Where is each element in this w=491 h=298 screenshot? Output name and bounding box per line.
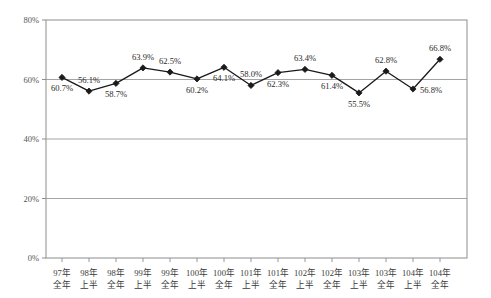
data-point-label: 61.4%	[321, 81, 343, 91]
x-axis-label-period: 全年	[377, 279, 395, 290]
x-axis-label-period: 上半	[188, 279, 206, 290]
data-point-label: 64.1%	[213, 73, 235, 83]
x-axis-label-year: 101年	[267, 267, 289, 278]
x-axis-tick-label: 101年上半	[240, 267, 262, 290]
y-axis-tick-label: 80%	[23, 15, 39, 25]
chart-container: 0%20%40%60%80%97年全年98年上半98年全年99年上半99年全年1…	[0, 0, 491, 298]
x-axis-label-year: 99年	[161, 267, 179, 278]
x-axis-label-year: 99年	[134, 267, 152, 278]
y-axis-tick-label: 40%	[23, 134, 39, 144]
x-axis-tick-label: 103年上半	[348, 267, 370, 290]
x-axis-label-year: 103年	[375, 267, 397, 278]
y-gridlines: 0%20%40%60%80%	[23, 15, 467, 263]
data-point-label: 60.2%	[186, 85, 208, 95]
x-axis-tick-label: 102年上半	[294, 267, 316, 290]
x-axis-label-period: 全年	[53, 279, 71, 290]
data-point-label: 63.4%	[294, 53, 316, 63]
data-point-label: 66.8%	[429, 43, 451, 53]
x-axis-label-period: 全年	[323, 279, 341, 290]
data-point-label: 62.8%	[375, 55, 397, 65]
x-axis-label-period: 上半	[296, 279, 314, 290]
x-axis-tick-label: 97年全年	[53, 267, 71, 290]
x-axis-tick-label: 103年全年	[375, 267, 397, 290]
x-axis-tick-label: 98年上半	[80, 267, 98, 290]
x-axis-tick-label: 100年上半	[186, 267, 208, 290]
x-axis-label-period: 全年	[269, 279, 287, 290]
x-axis-tick-label: 102年全年	[321, 267, 343, 290]
y-axis-tick-label: 20%	[23, 194, 39, 204]
data-point-marker[interactable]	[275, 70, 281, 76]
data-point-label: 62.5%	[159, 56, 181, 66]
data-point-label: 60.7%	[51, 83, 73, 93]
x-axis-tick-label: 99年全年	[161, 267, 179, 290]
x-axis-tick-label: 99年上半	[134, 267, 152, 290]
x-axis-label-period: 全年	[431, 279, 449, 290]
x-axis-tick-label: 100年全年	[213, 267, 235, 290]
y-axis-tick-label: 0%	[28, 253, 39, 263]
x-axis-label-year: 102年	[294, 267, 316, 278]
data-point-marker[interactable]	[302, 66, 308, 72]
x-axis-label-year: 103年	[348, 267, 370, 278]
y-axis-tick-label: 60%	[23, 75, 39, 85]
x-axis-label-year: 100年	[186, 267, 208, 278]
data-point-marker[interactable]	[113, 80, 119, 86]
data-point-label: 63.9%	[132, 52, 154, 62]
x-axis-tick-label: 104年全年	[429, 267, 451, 290]
data-point-marker[interactable]	[194, 76, 200, 82]
x-axis-label-period: 全年	[107, 279, 125, 290]
data-point-label: 62.3%	[267, 79, 289, 89]
x-axis-label-year: 97年	[53, 267, 71, 278]
x-axis-tick-label: 98年全年	[107, 267, 125, 290]
data-point-label: 56.1%	[78, 75, 100, 85]
data-point-label: 58.7%	[105, 89, 127, 99]
x-axis-ticks	[62, 258, 440, 262]
x-axis-label-period: 全年	[161, 279, 179, 290]
data-labels: 60.7%56.1%58.7%63.9%62.5%60.2%64.1%58.0%…	[51, 43, 451, 109]
x-axis-label-period: 全年	[215, 279, 233, 290]
x-axis-label-period: 上半	[350, 279, 368, 290]
x-axis-label-year: 98年	[80, 267, 98, 278]
x-axis-label-period: 上半	[134, 279, 152, 290]
data-point-marker[interactable]	[86, 88, 92, 94]
x-axis-label-year: 104年	[402, 267, 424, 278]
x-axis-tick-label: 104年上半	[402, 267, 424, 290]
line-chart: 0%20%40%60%80%97年全年98年上半98年全年99年上半99年全年1…	[0, 0, 491, 298]
data-point-label: 55.5%	[348, 99, 370, 109]
x-axis-label-year: 101年	[240, 267, 262, 278]
x-axis-label-period: 上半	[80, 279, 98, 290]
data-point-marker[interactable]	[167, 69, 173, 75]
x-axis-label-year: 104年	[429, 267, 451, 278]
x-axis-label-year: 100年	[213, 267, 235, 278]
data-point-marker[interactable]	[140, 65, 146, 71]
x-axis-label-year: 102年	[321, 267, 343, 278]
x-axis-label-year: 98年	[107, 267, 125, 278]
data-point-label: 58.0%	[240, 69, 262, 79]
data-point-label: 56.8%	[420, 85, 442, 95]
x-axis-label-period: 上半	[404, 279, 422, 290]
x-axis-tick-label: 101年全年	[267, 267, 289, 290]
x-axis-label-period: 上半	[242, 279, 260, 290]
x-axis-labels: 97年全年98年上半98年全年99年上半99年全年100年上半100年全年101…	[53, 267, 451, 290]
